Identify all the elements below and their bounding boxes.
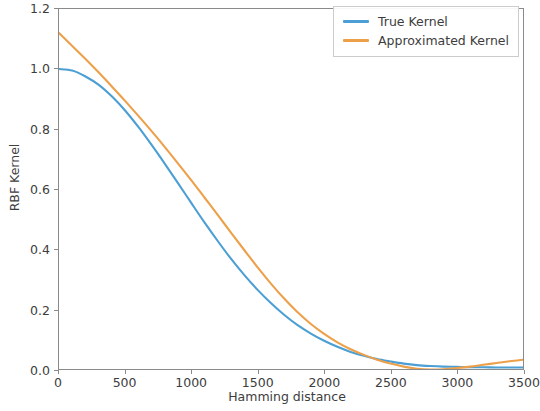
x-tick-label: 0: [54, 375, 62, 390]
x-tick-label: 2500: [375, 375, 407, 390]
x-tick-label: 500: [113, 375, 137, 390]
y-tick-mark: [54, 8, 58, 9]
x-tick-label: 3500: [508, 375, 540, 390]
x-tick-label: 3000: [442, 375, 474, 390]
legend-item-approximated-kernel: Approximated Kernel: [343, 31, 509, 50]
plot-area: [58, 8, 524, 370]
y-tick-mark: [54, 370, 58, 371]
x-tick-mark: [457, 370, 458, 374]
y-tick-mark: [54, 129, 58, 130]
x-tick-label: 2000: [308, 375, 340, 390]
legend-label-approximated-kernel: Approximated Kernel: [378, 33, 509, 48]
approximated-kernel-line: [59, 33, 523, 369]
y-tick-label: 1.0: [8, 61, 50, 76]
legend-line-swatch-approximated-kernel: [343, 39, 369, 41]
y-tick-mark: [54, 189, 58, 190]
x-tick-mark: [191, 370, 192, 374]
legend: True Kernel Approximated Kernel: [333, 6, 519, 57]
y-axis-title: RBF Kernel: [7, 118, 22, 238]
y-tick-label: 1.2: [8, 1, 50, 16]
legend-line-swatch-true-kernel: [343, 20, 369, 22]
y-tick-mark: [54, 68, 58, 69]
x-tick-mark: [125, 370, 126, 374]
legend-item-true-kernel: True Kernel: [343, 12, 509, 31]
y-tick-label: 0.0: [8, 363, 50, 378]
true-kernel-line: [59, 69, 523, 368]
y-tick-label: 0.2: [8, 302, 50, 317]
x-tick-mark: [258, 370, 259, 374]
x-tick-mark: [391, 370, 392, 374]
x-tick-label: 1000: [175, 375, 207, 390]
x-tick-mark: [324, 370, 325, 374]
y-tick-mark: [54, 249, 58, 250]
x-axis-title: Hamming distance: [0, 389, 536, 404]
x-tick-mark: [58, 370, 59, 374]
curves-svg: [59, 9, 523, 369]
legend-label-true-kernel: True Kernel: [378, 14, 448, 29]
x-tick-label: 1500: [242, 375, 274, 390]
y-tick-mark: [54, 310, 58, 311]
y-tick-label: 0.4: [8, 242, 50, 257]
x-tick-mark: [524, 370, 525, 374]
